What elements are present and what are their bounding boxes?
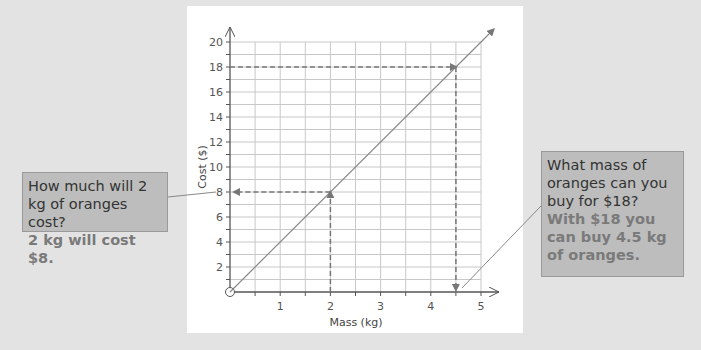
svg-text:10: 10 (209, 161, 223, 174)
svg-text:4: 4 (427, 300, 434, 313)
callout-answer: With $18 you can buy 4.5 kg of oranges. (547, 210, 678, 264)
callout-answer: 2 kg will cost $8. (28, 231, 162, 267)
svg-text:2: 2 (327, 300, 334, 313)
callout-question: What mass of oranges can you buy for $18… (547, 156, 678, 210)
x-axis-label: Mass (kg) (329, 316, 382, 329)
left-callout-leader (168, 192, 216, 197)
y-axis-label: Cost ($) (196, 145, 209, 189)
svg-text:5: 5 (478, 300, 485, 313)
svg-text:3: 3 (377, 300, 384, 313)
svg-text:8: 8 (216, 186, 223, 199)
svg-text:20: 20 (209, 36, 223, 49)
callout-question: How much will 2 kg of oranges cost? (28, 177, 162, 231)
svg-text:14: 14 (209, 111, 223, 124)
svg-text:18: 18 (209, 61, 223, 74)
right-callout-leader (462, 206, 541, 288)
question-callout-left: How much will 2 kg of oranges cost? 2 kg… (22, 172, 168, 232)
svg-text:2: 2 (216, 261, 223, 274)
svg-text:6: 6 (216, 211, 223, 224)
svg-text:16: 16 (209, 86, 223, 99)
question-callout-right: What mass of oranges can you buy for $18… (541, 151, 684, 277)
svg-text:1: 1 (277, 300, 284, 313)
svg-text:12: 12 (209, 136, 223, 149)
svg-text:4: 4 (216, 236, 223, 249)
data-series (230, 30, 494, 293)
